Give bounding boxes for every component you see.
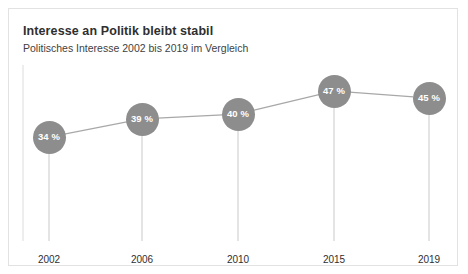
data-point-value-label: 40 %: [227, 109, 249, 119]
data-point-value-label: 45 %: [418, 93, 440, 103]
x-axis-tick-2006: 2006: [131, 254, 153, 266]
x-axis-tick-2015: 2015: [323, 254, 345, 266]
data-point-marker-2002[interactable]: 34 %: [33, 121, 66, 154]
x-axis-tick-2019: 2019: [418, 254, 440, 266]
data-point-value-label: 34 %: [38, 132, 60, 142]
chart-card: Interesse an Politik bleibt stabil Polit…: [8, 8, 458, 266]
line-chart-plot-area: 34 %39 %40 %47 %45 % 2002200620102015201…: [9, 9, 459, 267]
data-point-marker-2010[interactable]: 40 %: [222, 98, 255, 131]
data-point-marker-2019[interactable]: 45 %: [413, 82, 446, 115]
chart-svg: [9, 9, 459, 267]
x-axis-tick-2010: 2010: [227, 254, 249, 266]
data-point-marker-2015[interactable]: 47 %: [318, 75, 351, 108]
data-point-marker-2006[interactable]: 39 %: [126, 103, 159, 136]
data-point-value-label: 47 %: [323, 86, 345, 96]
x-axis-tick-2002: 2002: [38, 254, 60, 266]
data-point-value-label: 39 %: [131, 114, 153, 124]
